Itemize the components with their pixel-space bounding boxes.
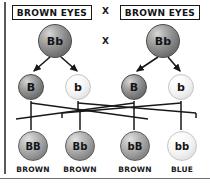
offspring-phenotype-label-2: BROWN (53, 165, 107, 174)
arrow-left-parent-to-gamete-B (34, 57, 50, 71)
page-edge-rule-bottom (0, 178, 210, 179)
gamete-sphere-3: B (121, 74, 147, 100)
arrow-left-parent-to-gamete-b (61, 57, 77, 71)
gamete-sphere-2: b (65, 74, 91, 100)
parent-right-phenotype-box: BROWN EYES (120, 5, 200, 20)
offspring-sphere-1: BB (18, 131, 48, 161)
offspring-phenotype-label-4: BLUE (155, 165, 209, 174)
parent-left-phenotype-box: BROWN EYES (12, 5, 92, 20)
inheritance-diagram: BROWN EYES X BROWN EYES Bb X Bb B b B b … (0, 0, 210, 184)
offspring-phenotype-label-3: BROWN (108, 165, 162, 174)
cross-symbol-top: X (102, 6, 109, 16)
offspring-sphere-3: bB (120, 131, 150, 161)
gamete-sphere-4: b (168, 74, 194, 100)
arrow-right-parent-to-gamete-B (137, 57, 158, 71)
offspring-sphere-4: bb (167, 131, 197, 161)
offspring-sphere-2: Bb (65, 131, 95, 161)
parent-right-genotype-sphere: Bb (146, 24, 180, 58)
offspring-phenotype-label-1: BROWN (6, 165, 60, 174)
gamete-to-offspring-lines (16, 101, 196, 130)
cross-symbol-middle: X (102, 36, 109, 46)
arrow-right-parent-to-gamete-b (168, 57, 180, 71)
gamete-sphere-1: B (18, 74, 44, 100)
page-edge-rule-left (4, 2, 6, 174)
parent-left-genotype-sphere: Bb (38, 24, 72, 58)
